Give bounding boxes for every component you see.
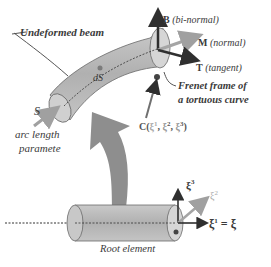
binormal-name: (bi-normal) — [172, 14, 219, 25]
s-label: S — [34, 105, 40, 117]
undeformed-beam-label: Undeformed beam — [20, 27, 104, 38]
normal-symbol: M — [198, 37, 207, 48]
arc-length-label-2: paramete — [19, 143, 61, 154]
tangent-name: (tangent) — [205, 62, 242, 73]
frenet-label-1: Frenet frame of — [178, 81, 247, 92]
curve-point-dot — [154, 74, 160, 80]
normal-name: (normal) — [210, 37, 246, 48]
xi3-label: ξ3 — [186, 180, 194, 191]
arc-length-label-1: arc length — [15, 129, 60, 140]
xi2-label: ξ2 — [210, 191, 218, 201]
curve-point-label: C(ξ1, ξ2, ξ3) — [139, 122, 187, 132]
big-mapping-arrow — [90, 112, 130, 208]
frenet-leader — [164, 72, 176, 86]
xi1-label: ξ1 = ξ — [209, 218, 236, 230]
undeformed-beam-leader — [14, 33, 68, 76]
tangent-label: T (tangent) — [196, 63, 242, 73]
binormal-label: B (bi-normal) — [163, 15, 219, 25]
ds-label: dS — [93, 73, 103, 83]
curve-point-arrow — [146, 82, 156, 118]
root-element-cylinder — [5, 205, 183, 241]
normal-label: M (normal) — [198, 38, 246, 48]
tangent-symbol: T — [196, 62, 203, 73]
beam-frenet-diagram: Undeformed beam dS S arc length paramete… — [0, 0, 271, 267]
curved-beam — [45, 28, 170, 126]
xi2-arrow — [178, 199, 206, 223]
frenet-label-2: a tortuous curve — [178, 95, 249, 106]
binormal-symbol: B — [163, 14, 170, 25]
root-element-label: Root element — [100, 244, 155, 255]
